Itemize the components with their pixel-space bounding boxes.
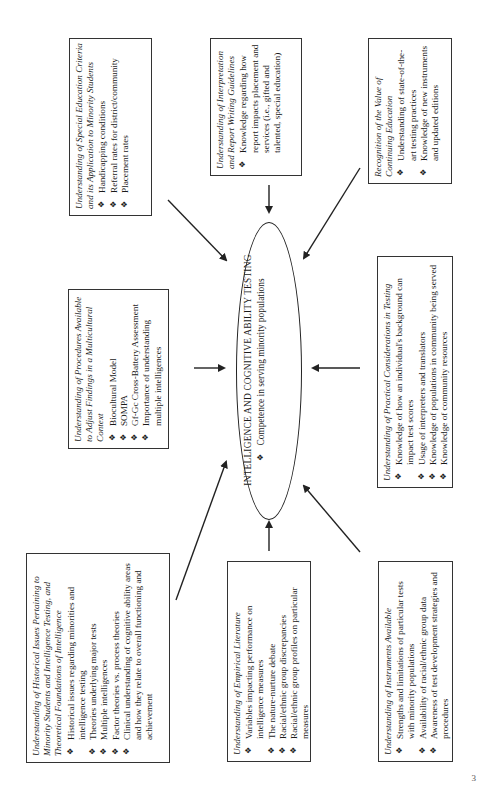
list-item: Awareness of test development strategies… — [429, 566, 451, 755]
list-item: Availability of racial/ethnic group data — [418, 566, 429, 755]
box-title: Understanding of Procedures Available to… — [73, 294, 107, 442]
list-item: Gf-Gc Cross-Battery Assessment — [130, 294, 141, 442]
arrow-special-education — [168, 200, 226, 260]
list-item: Understanding of state-of-the-art testin… — [396, 43, 418, 177]
list-item: Historical issues regarding minorities a… — [66, 558, 88, 756]
box-practical: Understanding of Practical Consideration… — [377, 256, 453, 488]
list-item: Importance of understanding multiple int… — [141, 294, 163, 442]
box-continuing-education: Recognition of the Value of Continuing E… — [368, 38, 452, 184]
list-item: Knowledge of populations in community be… — [428, 261, 439, 481]
list-item: Knowledge regarding how report impacts p… — [238, 43, 283, 169]
list-item: Knowledge of how an individual's backgro… — [394, 261, 416, 481]
list-item: Racial/ethnic group profiles on particul… — [289, 566, 311, 755]
box-title: Understanding of Interpretation and Repo… — [215, 43, 237, 169]
list-item: Biocultural Model — [108, 294, 119, 442]
box-instruments: Understanding of Instruments Available S… — [378, 561, 453, 762]
list-item: Multiple intelligences — [99, 558, 110, 756]
list-item: Clinical understanding of cognitive abil… — [122, 558, 156, 756]
box-historical: Understanding of Historical Issues Perta… — [26, 553, 170, 763]
list-item: Strengths and limitations of particular … — [395, 566, 417, 755]
list-item: Variables impacting performance on intel… — [244, 566, 266, 755]
box-title: Understanding of Historical Issues Perta… — [31, 558, 65, 756]
box-title: Understanding of Empirical Literature — [232, 566, 243, 755]
box-title: Understanding of Instruments Available — [383, 566, 394, 755]
arrow-instruments — [304, 486, 360, 552]
center-title: INTELLIGENCE AND COGNITIVE ABILITY TESTI… — [243, 231, 254, 509]
list-item: Racial/ethnic group discrepancies — [278, 566, 289, 755]
arrow-continuing-education — [304, 168, 360, 258]
list-item: Referral rates for district/community — [109, 43, 120, 209]
list-item: Knowledge of new instruments and updated… — [419, 43, 441, 177]
box-title: Understanding of Special Education Crite… — [74, 43, 96, 209]
list-item: Theories underlying major tests — [88, 558, 99, 756]
center-oval: INTELLIGENCE AND COGNITIVE ABILITY TESTI… — [236, 222, 302, 520]
list-item: Usage of interpreters and translators — [417, 261, 428, 481]
box-empirical: Understanding of Empirical Literature Va… — [227, 561, 311, 762]
list-item: Handicapping conditions — [97, 43, 108, 209]
list-item: Knowledge of community resources — [439, 261, 450, 481]
list-item: Placement rates — [120, 43, 131, 209]
box-procedures: Understanding of Procedures Available to… — [68, 289, 169, 449]
box-title: Recognition of the Value of Continuing E… — [373, 43, 395, 177]
box-title: Understanding of Practical Consideration… — [382, 261, 393, 481]
page-number: 3 — [472, 773, 477, 783]
list-item: SOMPA — [119, 294, 130, 442]
box-interpretation: Understanding of Interpretation and Repo… — [210, 38, 302, 176]
list-item: Factor theories vs. process theories — [111, 558, 122, 756]
arrow-historical — [176, 462, 226, 600]
list-item: The nature-nurture debate — [267, 566, 278, 755]
center-bullet: Competence in serving minority populatio… — [256, 278, 267, 461]
center-bullets: Competence in serving minority populatio… — [254, 231, 267, 509]
box-special-education: Understanding of Special Education Crite… — [69, 38, 152, 216]
